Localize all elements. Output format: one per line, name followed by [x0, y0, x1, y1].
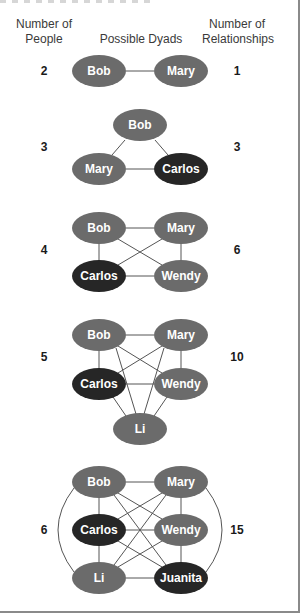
node-label-bob: Bob	[87, 328, 110, 342]
nodes: Bob Mary Bob Mary Carlos Bob Mary Carlos…	[72, 55, 208, 594]
node-label-mary: Mary	[167, 475, 195, 489]
node-label-li: Li	[94, 571, 105, 585]
node-label-mary: Mary	[167, 328, 195, 342]
node-label-wendy: Wendy	[161, 523, 200, 537]
node-label-wendy: Wendy	[161, 269, 200, 283]
node-label-carlos: Carlos	[80, 377, 118, 391]
dyads-graph: Bob Mary Bob Mary Carlos Bob Mary Carlos…	[0, 0, 301, 615]
node-label-carlos: Carlos	[162, 162, 200, 176]
node-label-mary: Mary	[167, 64, 195, 78]
node-label-bob: Bob	[87, 221, 110, 235]
node-label-mary: Mary	[85, 162, 113, 176]
node-label-carlos: Carlos	[80, 269, 118, 283]
node-label-juanita: Juanita	[160, 571, 202, 585]
node-label-wendy: Wendy	[161, 377, 200, 391]
node-label-bob: Bob	[128, 118, 151, 132]
node-label-li: Li	[135, 422, 146, 436]
node-label-bob: Bob	[87, 475, 110, 489]
node-label-carlos: Carlos	[80, 523, 118, 537]
node-label-mary: Mary	[167, 221, 195, 235]
node-label-bob: Bob	[87, 64, 110, 78]
